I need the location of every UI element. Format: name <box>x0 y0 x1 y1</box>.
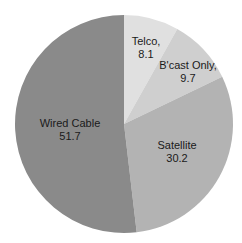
slice-label-value: 30.2 <box>157 152 196 165</box>
pie-chart <box>0 0 242 243</box>
slice-label-name: Telco, <box>132 35 161 48</box>
slice-label-name: Wired Cable <box>40 117 101 130</box>
slice-label-wired-cable: Wired Cable 51.7 <box>40 117 101 143</box>
slice-label-value: 8.1 <box>132 48 161 61</box>
slice-label-name: B'cast Only, <box>159 59 217 72</box>
slice-label-telco: Telco, 8.1 <box>132 35 161 61</box>
slice-label-name: Satellite <box>157 139 196 152</box>
slice-label-broadcast-only: B'cast Only, 9.7 <box>159 59 217 85</box>
slice-label-satellite: Satellite 30.2 <box>157 139 196 165</box>
slice-label-value: 9.7 <box>159 72 217 85</box>
slice-label-value: 51.7 <box>40 130 101 143</box>
